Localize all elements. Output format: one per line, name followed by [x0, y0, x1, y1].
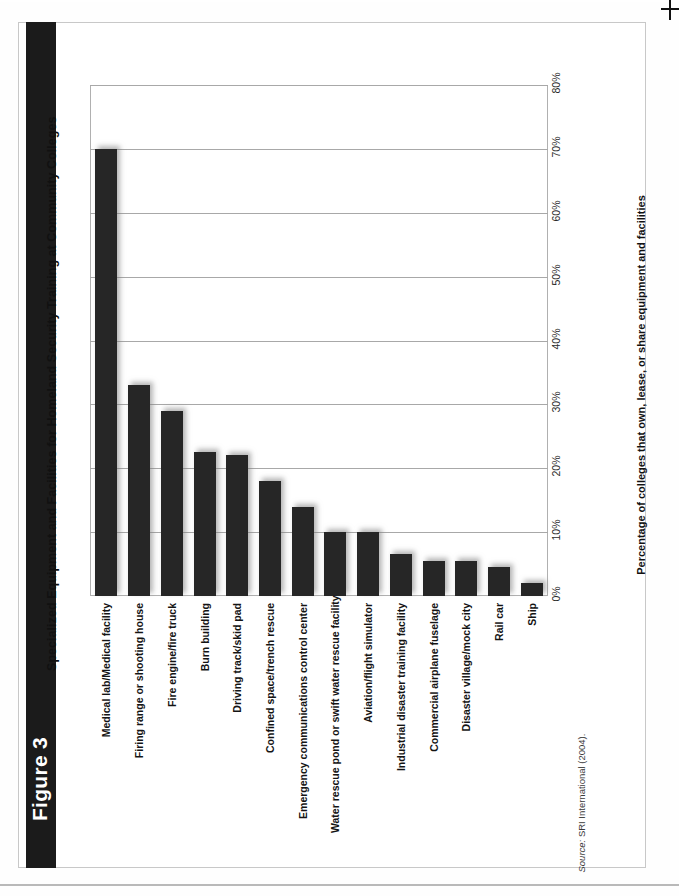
category-label: Ship: [526, 603, 538, 833]
page-bottom-rule: [0, 884, 679, 886]
category-label: Driving track/skid pad: [231, 603, 243, 833]
bar[interactable]: [194, 452, 216, 596]
bar[interactable]: [292, 507, 314, 596]
bar[interactable]: [324, 532, 346, 596]
category-label: Emergency communications control center: [297, 603, 309, 833]
bar[interactable]: [488, 567, 510, 596]
axis-tick-label: 50%: [550, 252, 562, 298]
category-label: Aviation/flight simulator: [362, 603, 374, 833]
bar[interactable]: [423, 561, 445, 596]
chart-plot-area: [90, 85, 548, 596]
category-label: Commercial airplane fuselage: [428, 603, 440, 833]
category-label: Rail car: [493, 603, 505, 833]
bar[interactable]: [259, 481, 281, 596]
bar[interactable]: [95, 149, 117, 596]
bar[interactable]: [521, 583, 543, 596]
bar[interactable]: [390, 554, 412, 596]
category-label: Medical lab/Medical facility: [100, 603, 112, 833]
category-label: Water rescue pond or swift water rescue …: [329, 603, 341, 833]
category-label: Burn building: [199, 603, 211, 833]
axis-tick-label: 40%: [550, 316, 562, 362]
axis-tick-label: 10%: [550, 507, 562, 553]
axis-tick-label: 0%: [550, 571, 562, 617]
bar-series: [90, 85, 548, 596]
figure-title: Specialized Equipment and Facilities for…: [45, 111, 59, 671]
axis-tick-label: 80%: [550, 60, 562, 106]
bar[interactable]: [455, 561, 477, 596]
crop-mark-icon: [661, 0, 679, 20]
source-note: Source: SRI International (2004).: [576, 643, 587, 873]
axis-tick-label: 60%: [550, 188, 562, 234]
axis-tick-label: 30%: [550, 379, 562, 425]
category-label: Disaster village/mock city: [460, 603, 472, 833]
source-text: SRI International (2004).: [576, 734, 587, 840]
bar[interactable]: [226, 455, 248, 596]
axis-tick-label: 70%: [550, 124, 562, 170]
source-prefix: Source:: [576, 840, 587, 873]
page-top-rule: [0, 0, 679, 2]
figure-number-label: Figure 3: [25, 699, 55, 859]
value-axis-title: Percentage of colleges that own, lease, …: [635, 165, 647, 605]
axis-tick-label: 20%: [550, 443, 562, 489]
category-label: Confined space/trench rescue: [264, 603, 276, 833]
category-label: Fire engine/fire truck: [166, 603, 178, 833]
bar[interactable]: [357, 532, 379, 596]
category-label: Firing range or shooting house: [133, 603, 145, 833]
category-label: Industrial disaster training facility: [395, 603, 407, 833]
page-frame: Figure 3 Specialized Equipment and Facil…: [0, 0, 679, 896]
bar[interactable]: [128, 385, 150, 596]
bar[interactable]: [161, 411, 183, 596]
